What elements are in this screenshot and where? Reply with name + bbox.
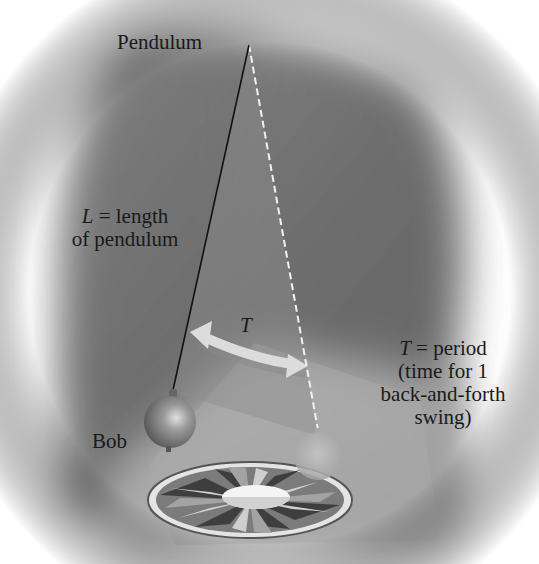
period-label-line1: = period (411, 336, 487, 360)
arrow-period-symbol: T (240, 314, 252, 337)
bob-label: Bob (92, 430, 127, 453)
period-symbol: T (399, 336, 411, 360)
period-label-line3: back-and-forth (358, 383, 528, 406)
pendulum-title-label: Pendulum (117, 31, 202, 54)
length-label: L = length of pendulum (50, 205, 200, 251)
pendulum-scene (0, 0, 539, 564)
period-label-line2: (time for 1 (358, 360, 528, 383)
period-label-line4: swing) (358, 406, 528, 429)
length-label-line1: = length (93, 204, 168, 228)
period-label: T = period (time for 1 back-and-forth sw… (358, 337, 528, 429)
length-symbol: L (82, 204, 94, 228)
length-label-line2: of pendulum (50, 228, 200, 251)
